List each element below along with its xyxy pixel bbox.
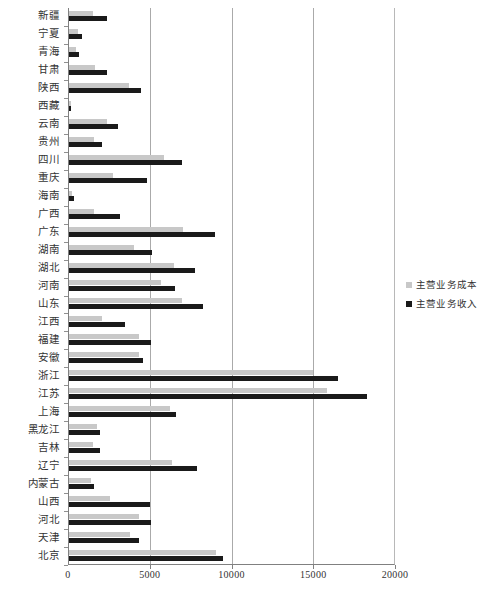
category-label-0: 新疆 (38, 10, 59, 21)
x-axis-label-10000: 10000 (202, 569, 262, 580)
bar-cost-17 (69, 316, 102, 321)
bar-cost-9 (69, 173, 113, 178)
legend-swatch-icon (406, 301, 412, 307)
bar-cost-21 (69, 388, 327, 393)
category-label-21: 江苏 (38, 388, 59, 399)
bar-revenue-1 (69, 34, 82, 39)
bar-revenue-8 (69, 160, 182, 165)
bar-revenue-21 (69, 394, 367, 399)
category-label-10: 海南 (38, 190, 59, 201)
category-label-22: 上海 (38, 406, 59, 417)
category-label-7: 贵州 (38, 136, 59, 147)
category-label-4: 陕西 (38, 82, 59, 93)
chart-row: 海南 (0, 188, 493, 206)
bar-cost-23 (69, 424, 97, 429)
chart-row: 江西 (0, 313, 493, 331)
bar-cost-3 (69, 65, 95, 70)
category-label-19: 安徽 (38, 352, 59, 363)
bar-revenue-11 (69, 214, 120, 219)
chart-row: 天津 (0, 529, 493, 547)
category-label-13: 湖南 (38, 244, 59, 255)
category-label-26: 内蒙古 (28, 478, 60, 489)
bar-cost-12 (69, 227, 183, 232)
chart-row: 四川 (0, 152, 493, 170)
x-axis-label-0: 0 (38, 569, 98, 580)
bar-revenue-14 (69, 268, 195, 273)
category-label-12: 广东 (38, 226, 59, 237)
bar-revenue-18 (69, 340, 151, 345)
bar-revenue-3 (69, 70, 107, 75)
chart-row: 北京 (0, 547, 493, 565)
category-label-16: 山东 (38, 298, 59, 309)
bar-revenue-10 (69, 196, 74, 201)
bar-cost-1 (69, 29, 78, 34)
bar-revenue-17 (69, 322, 125, 327)
chart-legend: 主营业务成本主营业务收入 (406, 278, 490, 316)
chart-row: 云南 (0, 116, 493, 134)
chart-row: 上海 (0, 403, 493, 421)
bar-revenue-30 (69, 556, 223, 561)
bar-cost-0 (69, 11, 93, 16)
x-axis-label-20000: 20000 (365, 569, 425, 580)
chart-row: 青海 (0, 44, 493, 62)
category-label-20: 浙江 (38, 370, 59, 381)
bar-revenue-26 (69, 484, 94, 489)
chart-row: 湖北 (0, 260, 493, 278)
bar-cost-19 (69, 352, 139, 357)
bar-cost-29 (69, 532, 130, 537)
bar-cost-18 (69, 334, 139, 339)
bar-revenue-12 (69, 232, 215, 237)
bar-revenue-4 (69, 88, 141, 93)
bar-revenue-7 (69, 142, 102, 147)
legend-swatch-icon (406, 282, 412, 288)
chart-row: 内蒙古 (0, 475, 493, 493)
bar-cost-2 (69, 47, 76, 52)
bar-revenue-2 (69, 52, 79, 57)
y-tick (64, 565, 68, 566)
bar-revenue-25 (69, 466, 197, 471)
bar-cost-30 (69, 550, 216, 555)
chart-row: 西藏 (0, 98, 493, 116)
category-label-6: 云南 (38, 118, 59, 129)
category-label-28: 河北 (38, 514, 59, 525)
bar-revenue-20 (69, 376, 338, 381)
bar-cost-13 (69, 245, 134, 250)
bar-revenue-15 (69, 286, 175, 291)
chart-row: 吉林 (0, 439, 493, 457)
chart-row: 河北 (0, 511, 493, 529)
x-axis-label-5000: 5000 (120, 569, 180, 580)
chart-row: 广东 (0, 224, 493, 242)
bar-cost-8 (69, 155, 164, 160)
bar-cost-28 (69, 514, 139, 519)
bar-revenue-24 (69, 448, 100, 453)
chart-row: 湖南 (0, 242, 493, 260)
category-label-8: 四川 (38, 154, 59, 165)
category-label-14: 湖北 (38, 262, 59, 273)
chart-row: 福建 (0, 331, 493, 349)
bar-revenue-19 (69, 358, 143, 363)
bar-revenue-23 (69, 430, 100, 435)
bar-cost-10 (69, 191, 72, 196)
bar-revenue-29 (69, 538, 139, 543)
bar-cost-6 (69, 119, 107, 124)
chart-row: 辽宁 (0, 457, 493, 475)
bar-cost-20 (69, 370, 313, 375)
bar-cost-26 (69, 478, 91, 483)
bar-cost-22 (69, 406, 170, 411)
chart-row: 宁夏 (0, 26, 493, 44)
category-label-9: 重庆 (38, 172, 59, 183)
category-label-25: 辽宁 (38, 460, 59, 471)
category-label-27: 山西 (38, 496, 59, 507)
category-label-29: 天津 (38, 532, 59, 543)
category-label-1: 宁夏 (38, 28, 59, 39)
category-label-2: 青海 (38, 46, 59, 57)
bar-cost-7 (69, 137, 94, 142)
bar-cost-25 (69, 460, 172, 465)
chart-row: 浙江 (0, 367, 493, 385)
bar-revenue-28 (69, 520, 151, 525)
bar-cost-24 (69, 442, 93, 447)
chart-row: 江苏 (0, 385, 493, 403)
bar-cost-15 (69, 280, 161, 285)
bar-revenue-13 (69, 250, 152, 255)
legend-item-0: 主营业务成本 (406, 278, 490, 292)
